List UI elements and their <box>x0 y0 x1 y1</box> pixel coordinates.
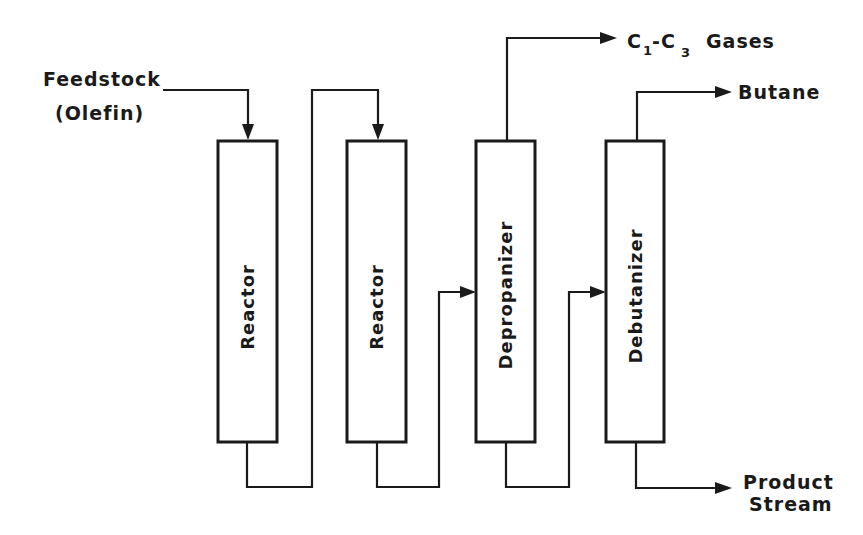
svg-text:Gases: Gases <box>706 30 775 52</box>
feedstock-label: Feedstock <box>43 68 161 90</box>
feedstock-sublabel: (Olefin) <box>55 102 144 124</box>
reactor-2-unit: Reactor <box>347 141 406 442</box>
debutanizer-label: Debutanizer <box>625 228 646 363</box>
reactor-2-label: Reactor <box>366 264 387 350</box>
svg-text:1: 1 <box>643 43 652 58</box>
svg-text:C: C <box>627 30 642 52</box>
stream-label: Stream <box>749 493 833 515</box>
svg-text:-C: -C <box>652 30 676 52</box>
reactor-1-label: Reactor <box>237 264 258 350</box>
arrow-right-icon <box>715 86 732 98</box>
feed-pipe <box>163 90 254 140</box>
gases-pipe <box>507 32 617 141</box>
process-flow-diagram: Feedstock (Olefin) Reactor Reactor Depro… <box>0 0 863 535</box>
arrow-down-icon <box>372 124 384 140</box>
butane-label: Butane <box>738 81 820 103</box>
product-pipe <box>636 442 732 494</box>
reactor-1-unit: Reactor <box>218 141 277 442</box>
depropanizer-label: Depropanizer <box>495 221 516 370</box>
product-label: Product <box>743 471 834 493</box>
debutanizer-unit: Debutanizer <box>606 141 664 442</box>
arrow-right-icon <box>590 286 606 298</box>
arrow-right-icon <box>715 482 732 494</box>
depropanizer-unit: Depropanizer <box>476 141 535 442</box>
svg-text:3: 3 <box>681 45 690 60</box>
arrow-right-icon <box>600 32 617 44</box>
gases-label: C 1 -C 3 Gases <box>627 30 775 60</box>
arrow-right-icon <box>460 286 476 298</box>
butane-pipe <box>637 86 732 141</box>
arrow-down-icon <box>242 124 254 140</box>
